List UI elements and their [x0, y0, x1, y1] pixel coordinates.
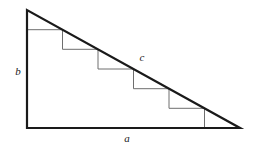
figure-canvas: b c a: [0, 0, 255, 151]
label-leg-a: a: [124, 132, 130, 144]
triangle-diagram: b c a: [0, 0, 255, 151]
staircase-polyline: [27, 30, 205, 128]
triangle-outline: [27, 10, 240, 128]
label-hypotenuse-c: c: [140, 51, 145, 63]
label-leg-b: b: [15, 65, 21, 77]
